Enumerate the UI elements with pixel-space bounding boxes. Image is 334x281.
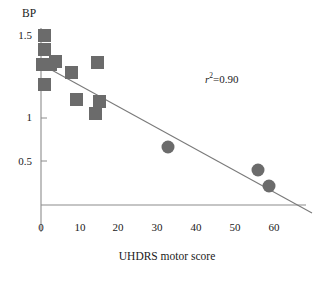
x-axis-title: UHDRS motor score: [0, 251, 334, 263]
data-point-circle: [263, 180, 276, 193]
series-patients: [162, 141, 276, 193]
data-point-square: [49, 55, 62, 68]
x-tick-label-0: 0: [28, 222, 54, 233]
data-point-square: [65, 66, 78, 79]
x-tick-label-40: 40: [183, 222, 209, 233]
data-point-square: [70, 93, 83, 106]
y-tick-label-1: 1: [6, 112, 32, 123]
data-point-square: [38, 78, 51, 91]
x-tick-label-10: 10: [67, 222, 93, 233]
data-point-square: [89, 107, 102, 120]
series-control-subjects: [36, 29, 106, 120]
x-tick-label-50: 50: [222, 222, 248, 233]
data-point-square: [93, 95, 106, 108]
data-point-square: [38, 43, 51, 56]
y-tick-label-1.5: 1.5: [6, 30, 32, 41]
r-squared-value: =0.90: [213, 73, 238, 85]
r-squared-annotation: r2=0.90: [205, 71, 239, 85]
chart-figure: BP 1.5 1 0.5 0 10 20 30 40 50 60 UHDRS m…: [0, 0, 334, 281]
x-tick-label-60: 60: [261, 222, 287, 233]
data-point-square: [38, 29, 51, 42]
x-tick-label-30: 30: [144, 222, 170, 233]
x-tick-label-20: 20: [105, 222, 131, 233]
data-point-square: [91, 56, 104, 69]
y-axis-title: BP: [22, 8, 36, 20]
data-point-circle: [252, 164, 265, 177]
data-point-circle: [162, 141, 175, 154]
scatter-plot-canvas: [0, 0, 334, 281]
y-tick-label-0.5: 0.5: [6, 156, 32, 167]
